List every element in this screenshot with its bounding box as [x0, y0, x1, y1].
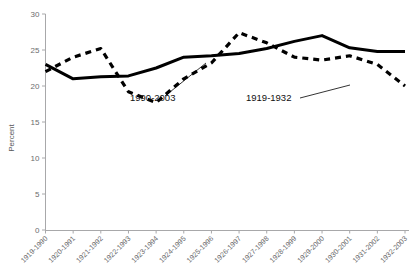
x-tick-label: 1928-1999: [268, 234, 299, 265]
y-tick-group: 051015202530: [31, 10, 46, 235]
x-tick-label: 1930-2001: [323, 234, 354, 265]
x-tick-label: 1925-1996: [185, 234, 216, 265]
y-tick-label: 30: [31, 10, 40, 19]
x-tick-label: 1919-1990: [19, 234, 50, 265]
x-tick-label: 1922-1993: [102, 234, 133, 265]
chart-container: 051015202530 1919-19901920-19911921-1992…: [0, 0, 417, 278]
annotation-leader-line: [300, 85, 350, 98]
series-annotation-label-2: 1919-1932: [246, 92, 291, 103]
annotation-group: 1990-20031919-1932: [130, 63, 350, 103]
y-tick-label: 15: [31, 118, 40, 127]
y-tick-label: 10: [31, 154, 40, 163]
y-tick-label: 20: [31, 82, 40, 91]
x-tick-label: 1932-2003: [378, 234, 409, 265]
x-tick-label: 1920-1991: [46, 234, 77, 265]
series-line-2: [46, 33, 406, 103]
x-tick-group: 1919-19901920-19911921-19921922-19931923…: [19, 230, 409, 265]
x-tick-label: 1926-1997: [212, 234, 243, 265]
y-tick-label: 0: [35, 226, 40, 235]
x-tick-label: 1921-1992: [74, 234, 105, 265]
y-tick-label: 5: [35, 190, 40, 199]
series-annotation-label-1: 1990-2003: [130, 92, 175, 103]
x-tick-label: 1923-1994: [129, 234, 160, 265]
x-tick-label: 1927-1998: [240, 234, 271, 265]
series-group: [46, 33, 406, 103]
y-tick-label: 25: [31, 46, 40, 55]
x-tick-label: 1929-2000: [295, 234, 326, 265]
x-tick-label: 1924-1995: [157, 234, 188, 265]
line-chart: 051015202530 1919-19901920-19911921-1992…: [0, 0, 417, 278]
y-axis-title: Percent: [7, 123, 16, 151]
x-tick-label: 1931-2002: [351, 234, 382, 265]
